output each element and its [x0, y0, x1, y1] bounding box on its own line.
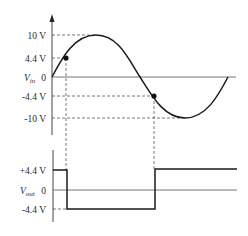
waveform-diagram: 10 V 4.4 V 0 Vin -4.4 V -10 V +4.4 V 0 V…	[0, 0, 248, 236]
tick-label-neg4v4: -4.4 V	[22, 92, 46, 102]
vout-plot: +4.4 V 0 Vout -4.4 V	[20, 150, 237, 222]
vin-label: Vin	[24, 73, 36, 85]
vin-sine-wave	[52, 35, 228, 118]
axis-arrow-icon	[50, 14, 55, 22]
vout-square-wave	[53, 169, 237, 209]
vout-label: Vout	[20, 186, 36, 198]
tick-label-neg10v: -10 V	[24, 114, 46, 124]
crossing-dot-falling	[151, 93, 156, 98]
tick-label-10v: 10 V	[27, 31, 46, 41]
vin-plot: 10 V 4.4 V 0 Vin -4.4 V -10 V	[22, 14, 236, 170]
tick-label-neg4v4-out: -4.4 V	[22, 205, 46, 215]
vin-zero-label: 0	[41, 73, 46, 83]
tick-label-pos4v4: +4.4 V	[20, 166, 46, 176]
crossing-dot-rising	[63, 55, 68, 60]
vout-zero-label: 0	[41, 186, 46, 196]
tick-label-4v4: 4.4 V	[25, 54, 46, 64]
